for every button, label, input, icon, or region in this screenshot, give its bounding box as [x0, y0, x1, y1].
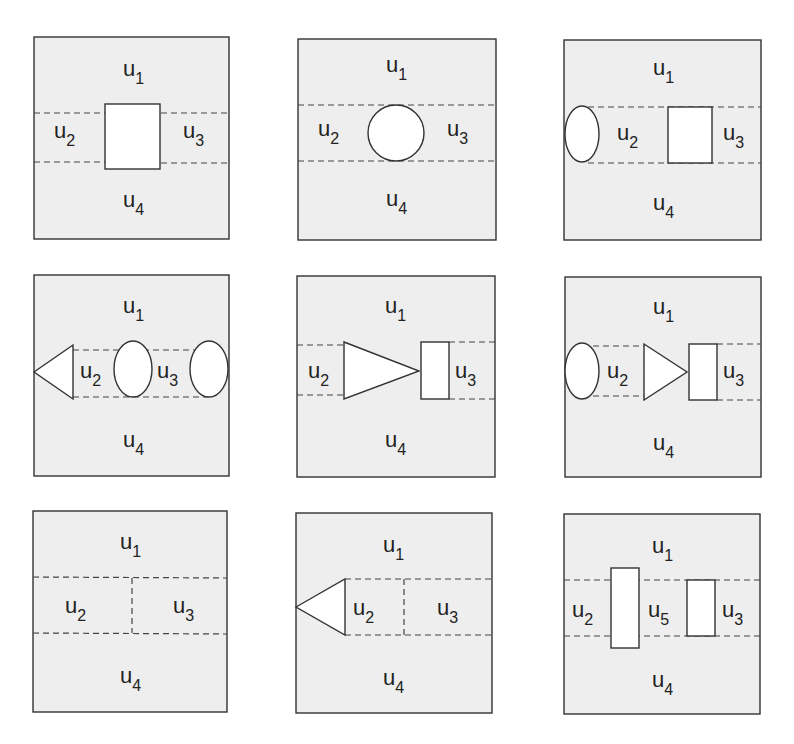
panel-6: u1 u2 u3 u4 [565, 277, 761, 477]
rectangle-obstacle [668, 107, 712, 163]
rectangle-obstacle [687, 580, 715, 636]
panel-9: u1 u2 u5 u3 u4 [564, 514, 760, 714]
panel-7: u1 u2 u3 u4 [33, 511, 227, 712]
ellipse-obstacle [190, 341, 228, 397]
rectangle-obstacle [105, 104, 160, 169]
ellipse-obstacle [114, 341, 152, 397]
panel-8: u1 u2 u3 u4 [296, 513, 492, 713]
panel-1: u1 u2 u3 u4 [34, 37, 229, 239]
diagram-canvas: u1 u2 u3 u4 u1 u2 u3 u4 u1 u2 u3 u4 u1 u… [0, 0, 794, 744]
rectangle-obstacle [689, 344, 717, 400]
ellipse-obstacle [565, 106, 599, 162]
circle-obstacle [368, 105, 424, 161]
rectangle-obstacle [421, 342, 449, 399]
panel-5: u1 u2 u3 u4 [297, 276, 495, 477]
ellipse-obstacle [565, 343, 599, 399]
tall-rectangle-obstacle [611, 568, 639, 648]
panel-4: u1 u2 u3 u4 [34, 275, 229, 476]
panel-3: u1 u2 u3 u4 [564, 40, 761, 240]
panel-2: u1 u2 u3 u4 [298, 39, 496, 240]
